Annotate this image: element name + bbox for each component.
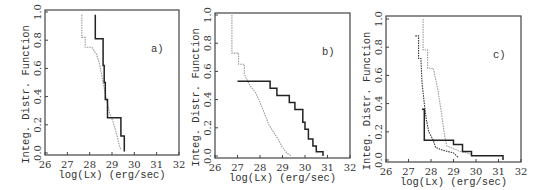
data-series	[238, 81, 324, 156]
data-series	[423, 19, 471, 154]
data-series	[232, 15, 292, 156]
panel-label: c)	[493, 49, 506, 61]
y-tick-label: 0.4	[32, 89, 43, 105]
y-tick-label: 0.8	[32, 32, 43, 48]
y-tick-label: 1.0	[202, 7, 213, 23]
x-tick-label: 32	[344, 162, 357, 173]
y-tick-label: 0.8	[373, 39, 384, 55]
y-tick-label: 0.4	[373, 96, 384, 112]
x-axis-title: log(Lx) (erg/sec)	[400, 176, 507, 188]
y-tick-label: 0.4	[202, 92, 213, 108]
data-series	[95, 15, 124, 152]
y-tick-label: 0.0	[373, 152, 384, 168]
x-axis-title: log(Lx) (erg/sec)	[229, 172, 336, 184]
y-tick-label: 0.2	[32, 117, 43, 133]
y-tick-label: 1.0	[373, 11, 384, 27]
x-axis-title: log(Lx) (erg/sec)	[58, 169, 165, 181]
panel-c: 262728293031320.00.20.40.60.81.0log(Lx) …	[361, 11, 527, 188]
y-tick-label: 1.0	[32, 4, 43, 20]
y-tick-label: 0.2	[373, 124, 384, 140]
x-tick-label: 32	[515, 166, 528, 177]
y-tick-label: 0.0	[202, 148, 213, 164]
data-series	[82, 15, 121, 150]
y-tick-label: 0.2	[202, 120, 213, 136]
panel-label: b)	[322, 46, 335, 58]
y-tick-label: 0.0	[32, 145, 43, 161]
plot-frame	[215, 13, 350, 158]
data-series	[415, 36, 458, 157]
y-tick-label: 0.6	[202, 63, 213, 79]
panel-b: 262728293031320.00.20.40.60.81.0log(Lx) …	[190, 7, 356, 184]
y-axis-title: Integ. Distr. Function	[361, 32, 373, 171]
plot-frame	[45, 10, 179, 155]
figure: 262728293031320.00.20.40.60.81.0log(Lx) …	[0, 0, 547, 190]
panel-label: a)	[151, 43, 164, 55]
y-tick-label: 0.8	[202, 35, 213, 51]
y-axis-title: Integ. Distr. Function	[190, 28, 202, 167]
panel-a: 262728293031320.00.20.40.60.81.0log(Lx) …	[20, 4, 185, 181]
y-axis-title: Integ. Distr. Function	[20, 25, 32, 164]
y-tick-label: 0.6	[373, 67, 384, 83]
y-tick-label: 0.6	[32, 60, 43, 76]
x-tick-label: 32	[173, 159, 186, 170]
